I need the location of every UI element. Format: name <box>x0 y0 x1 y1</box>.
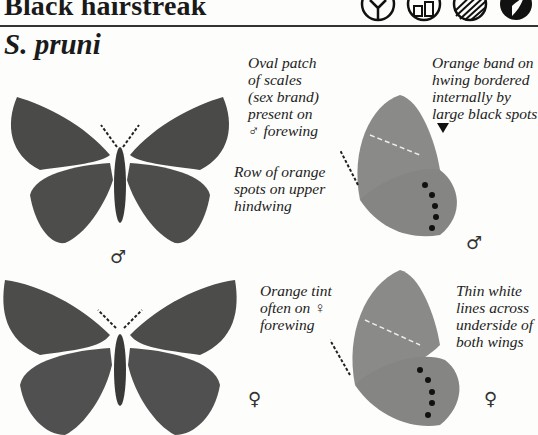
female-underside-illustration <box>330 265 470 435</box>
female-symbol-underside: ♀ <box>484 388 497 409</box>
butterfly-silhouette-icon <box>498 0 534 22</box>
male-symbol-underside: ♂ <box>466 232 482 253</box>
tree-icon <box>360 0 396 22</box>
annotation-orange-spots: Row of orange spots on upper hindwing <box>234 163 325 214</box>
annotation-orange-tint: Orange tint often on ♀ forewing <box>260 282 332 333</box>
annotation-white-lines: Thin white lines across underside of bot… <box>456 282 533 350</box>
habitat-icons <box>360 0 534 22</box>
annotation-sex-brand: Oval patch of scales (sex brand) present… <box>248 54 319 139</box>
female-symbol-upperside: ♀ <box>248 388 261 409</box>
female-upperside-illustration <box>0 270 240 435</box>
building-icon <box>406 0 442 22</box>
header-rule <box>0 25 538 27</box>
male-upperside-illustration <box>5 85 235 250</box>
pointer-triangle-icon <box>437 123 449 133</box>
male-symbol-upperside: ♂ <box>110 246 126 267</box>
sunburst-icon <box>452 0 488 22</box>
common-name-title: Black hairstreak <box>4 0 207 22</box>
scientific-name: S. pruni <box>4 28 101 61</box>
annotation-orange-band: Orange band on hwing bordered internally… <box>432 54 537 122</box>
